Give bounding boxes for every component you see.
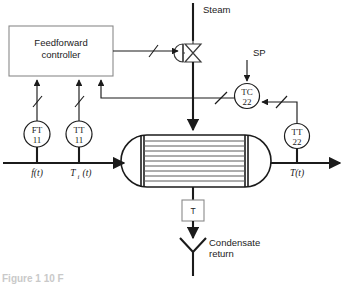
condensate-return-label-line2: return — [209, 248, 234, 259]
tt11-tag-top: TT — [74, 125, 85, 135]
tc22-feedback-signal-line — [101, 80, 234, 98]
tt22-tag-bottom: 22 — [293, 137, 302, 147]
feedforward-controller[interactable]: Feedforward controller — [9, 26, 113, 76]
tt11-tag-bottom: 11 — [75, 135, 84, 145]
tc22-tag-bottom: 22 — [243, 97, 252, 107]
temperature-controller-bubble[interactable]: TC 22 — [235, 84, 260, 109]
condensate-return-junction — [180, 238, 206, 276]
inlet-flow-label: f(t) — [31, 168, 43, 179]
outlet-temperature-label: T(t) — [290, 168, 304, 179]
condensate-return-label-line1: Condensate — [209, 237, 260, 248]
inlet-temp-subscript: i — [78, 173, 80, 180]
steam-trap-label: T — [190, 206, 195, 216]
process-flow-diagram-canvas: Steam Feedforward controller — [0, 0, 343, 287]
tt22-to-tc22-signal-line — [262, 102, 297, 123]
inlet-temperature-transmitter-bubble[interactable]: TT 11 — [66, 121, 92, 147]
inlet-temp-argument: (t) — [83, 168, 92, 179]
flow-transmitter-bubble[interactable]: FT 11 — [24, 121, 50, 147]
tc22-tag-top: TC — [241, 87, 253, 97]
pid-diagram: Steam Feedforward controller — [0, 0, 343, 287]
valve-actuator-diaphragm — [174, 44, 183, 62]
ft11-tag-top: FT — [32, 125, 43, 135]
steam-control-valve[interactable] — [174, 40, 201, 62]
inlet-temp-base: T — [70, 168, 76, 178]
valve-body — [185, 44, 201, 62]
outlet-temperature-transmitter-bubble[interactable]: TT 22 — [285, 124, 310, 149]
steam-label: Steam — [203, 4, 231, 15]
ft11-tag-bottom: 11 — [33, 135, 42, 145]
figure-caption: Figure 1 10 F — [2, 272, 342, 287]
steam-trap[interactable]: T — [182, 200, 204, 221]
heat-exchanger — [121, 135, 271, 187]
tt22-tag-top: TT — [292, 127, 303, 137]
inlet-temperature-label: T i (t) — [70, 168, 91, 180]
controller-label-line2: controller — [41, 49, 80, 60]
setpoint-label: SP — [253, 47, 266, 58]
controller-label-line1: Feedforward — [34, 37, 87, 48]
